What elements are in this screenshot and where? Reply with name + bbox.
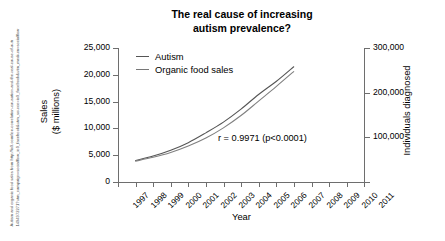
y-axis-left-title-line-2: ($ millions) (49, 57, 61, 167)
x-tick-mark (294, 183, 295, 187)
y-right-tick-mark (365, 182, 370, 183)
y-axis-left-spine (118, 48, 119, 182)
y-axis-left-title-line-1: Sales (38, 57, 50, 167)
legend-label: Organic food sales (155, 64, 233, 75)
y-right-tick-mark (365, 137, 370, 138)
x-tick-label: 2002 (218, 190, 238, 210)
x-tick-label: 1998 (148, 190, 168, 210)
y-right-tick-label: 300,000 (373, 42, 404, 52)
x-tick-label: 2006 (288, 190, 308, 210)
x-tick-mark (329, 183, 330, 187)
chart-legend: Autism Organic food sales (136, 50, 233, 76)
x-tick-mark (241, 183, 242, 187)
y-left-tick-label: 20,000 (58, 69, 110, 79)
series-line-organic-food-sales (136, 72, 294, 162)
x-tick-mark (312, 183, 313, 187)
y-axis-right-title: Individuals diagnosed (401, 36, 412, 186)
x-tick-label: 2004 (253, 190, 273, 210)
y-left-tick-mark (113, 75, 118, 76)
x-tick-mark (188, 183, 189, 187)
correlation-annotation: r = 0.9971 (p<0.0001) (218, 133, 307, 143)
x-tick-label: 2000 (183, 190, 203, 210)
y-axis-left-title: Sales ($ millions) (38, 57, 61, 167)
x-tick-mark (347, 183, 348, 187)
legend-line-icon (136, 69, 149, 71)
x-axis-title: Year (118, 211, 365, 222)
chart-screenshot: Autism and organic food sales from http:… (0, 0, 445, 241)
legend-line-icon (136, 56, 149, 58)
y-left-tick-mark (113, 128, 118, 129)
y-axis-right-spine (364, 48, 365, 182)
x-tick-mark (364, 183, 365, 187)
y-left-tick-label: 15,000 (58, 96, 110, 106)
x-tick-mark (136, 183, 137, 187)
x-tick-mark (259, 183, 260, 187)
y-right-tick-mark (365, 48, 370, 49)
x-tick-mark (206, 183, 207, 187)
x-tick-label: 1997 (130, 190, 150, 210)
y-right-tick-label: 200,000 (373, 87, 404, 97)
x-tick-mark (224, 183, 225, 187)
x-tick-label: 2001 (200, 190, 220, 210)
source-caption: Autism and organic food sales from http:… (9, 21, 20, 227)
y-left-tick-label: 25,000 (58, 42, 110, 52)
y-right-tick-mark (365, 93, 370, 94)
x-tick-label: 2005 (271, 190, 291, 210)
x-tick-mark (276, 183, 277, 187)
y-left-tick-label: 0 (58, 176, 110, 186)
x-tick-mark (153, 183, 154, 187)
chart-title-line-1: The real cause of increasing (118, 8, 366, 22)
chart-title: The real cause of increasing autism prev… (118, 8, 366, 35)
x-tick-label: 2011 (376, 190, 396, 210)
y-right-tick-label: 100,000 (373, 131, 404, 141)
legend-label: Autism (155, 51, 184, 62)
y-left-tick-label: 5,000 (58, 149, 110, 159)
series-line-autism (136, 67, 294, 161)
y-left-tick-mark (113, 155, 118, 156)
legend-item-autism: Autism (136, 50, 233, 63)
x-tick-label: 2007 (306, 190, 326, 210)
x-tick-label: 2008 (324, 190, 344, 210)
x-tick-mark (118, 183, 119, 187)
y-left-tick-mark (113, 102, 118, 103)
y-left-tick-label: 10,000 (58, 122, 110, 132)
x-tick-label: 1999 (165, 190, 185, 210)
x-tick-label: 2003 (236, 190, 256, 210)
chart-title-line-2: autism prevalence? (118, 22, 366, 36)
y-left-tick-mark (113, 48, 118, 49)
x-tick-label: 2010 (359, 190, 379, 210)
x-tick-mark (171, 183, 172, 187)
x-tick-label: 2009 (341, 190, 361, 210)
legend-item-organic-food-sales: Organic food sales (136, 63, 233, 76)
